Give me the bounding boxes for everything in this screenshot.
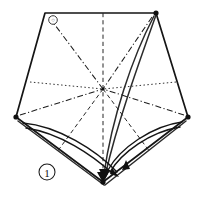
crease-center-to-right-edge [103,82,176,89]
step-number-label: 1 [44,167,50,179]
origami-figure-panel: ○ 1 [0,0,203,197]
crease-hub-center [101,87,104,90]
crease-center-to-left-vertex [20,89,103,115]
pentagon-outline [16,13,188,182]
crease-center-to-left-edge [30,82,103,89]
crease-center-to-right-vertex [103,89,184,115]
pentagon-edge-lower-left-shadow [18,121,104,185]
corner-reference-ring-glyph: ○ [51,17,55,23]
vertex-marker-top-right [153,10,158,15]
vertex-marker-bottom [100,179,105,184]
vertex-marker-right [185,114,190,119]
crease-center-to-top-left [49,17,103,89]
origami-diagram-svg: ○ 1 [0,0,203,197]
vertex-marker-left [13,114,18,119]
